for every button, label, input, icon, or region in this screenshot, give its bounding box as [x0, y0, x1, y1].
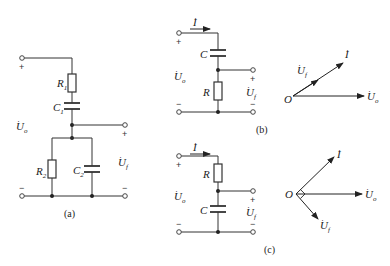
svg-text:·: · — [175, 186, 178, 196]
input-terminal-plus — [20, 56, 25, 61]
panel-b-phasor: O I · Uf · Uo · — [284, 45, 379, 105]
circuit-figure: + R1 C1 + R2 C2 − − Uo — [0, 0, 390, 266]
svg-text:·: · — [194, 138, 197, 148]
origin-label: O — [285, 188, 293, 200]
figure-svg: + R1 C1 + R2 C2 − − Uo — [0, 0, 390, 266]
caption-c: (c) — [264, 244, 275, 256]
input-terminal-minus — [177, 110, 182, 115]
output-terminal-minus — [251, 110, 256, 115]
svg-text:·: · — [298, 60, 301, 70]
output-terminal-plus — [251, 68, 256, 73]
c-label: C — [200, 204, 208, 216]
c-label: C — [200, 48, 208, 60]
caption-a: (a) — [64, 208, 75, 220]
svg-text:·: · — [321, 215, 324, 225]
phasor-i-arrow — [296, 157, 334, 194]
panel-b-circuit: I · + C + R − − Uo · Uf · (b) — [174, 13, 268, 136]
c1-label: C1 — [53, 101, 64, 116]
phasor-uf-arrow — [293, 80, 318, 96]
output-terminal-plus — [123, 123, 128, 128]
input-terminal-plus — [177, 31, 182, 36]
minus-sign: − — [19, 183, 24, 193]
resistor-r2 — [48, 160, 56, 178]
plus-sign: + — [122, 129, 127, 139]
minus-sign: − — [176, 99, 181, 109]
r-label: R — [202, 86, 210, 98]
r1-label: R1 — [56, 77, 67, 92]
plus-sign: + — [19, 62, 24, 72]
input-terminal-minus — [177, 230, 182, 235]
caption-b: (b) — [256, 124, 268, 136]
svg-text:·: · — [368, 86, 371, 96]
plus-sign: + — [176, 37, 181, 47]
svg-text:·: · — [175, 66, 178, 76]
svg-text:·: · — [119, 152, 122, 162]
output-terminal-plus — [251, 189, 256, 194]
resistor-r — [214, 82, 222, 100]
r-label: R — [202, 168, 210, 180]
plus-sign: + — [250, 195, 255, 205]
svg-text:·: · — [346, 45, 349, 55]
svg-text:·: · — [366, 184, 369, 194]
svg-text:·: · — [338, 145, 341, 155]
panel-c-phasor: O I · Uo · Uf · (c) — [264, 145, 377, 256]
plus-sign: + — [176, 160, 181, 170]
svg-text:·: · — [247, 202, 250, 212]
svg-text:·: · — [247, 82, 250, 92]
resistor-r — [214, 164, 222, 182]
svg-text:·: · — [17, 116, 20, 126]
minus-sign: − — [122, 183, 127, 193]
input-terminal-plus — [177, 154, 182, 159]
r2-label: R2 — [35, 165, 47, 180]
output-terminal-minus — [123, 194, 128, 199]
c2-label: C2 — [73, 164, 84, 179]
resistor-r1 — [68, 74, 76, 92]
panel-a-circuit: + R1 C1 + R2 C2 − − Uo — [16, 56, 129, 220]
origin-label: O — [284, 93, 292, 105]
minus-sign: − — [176, 219, 181, 229]
output-terminal-minus — [251, 230, 256, 235]
phasor-uf-arrow — [296, 194, 318, 219]
plus-sign: + — [250, 74, 255, 84]
svg-text:·: · — [194, 13, 197, 23]
input-terminal-minus — [20, 194, 25, 199]
panel-c-circuit: I · + R + C − − Uo · Uf · — [174, 138, 257, 234]
